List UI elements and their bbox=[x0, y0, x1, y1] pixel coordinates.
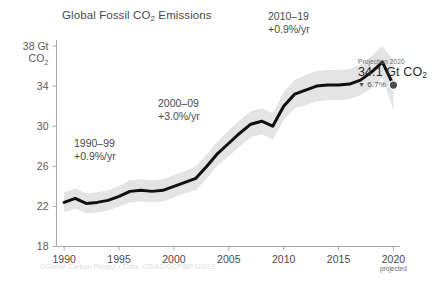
x-tick-label-2020: 2020 bbox=[382, 253, 406, 265]
projection-value: 34.1 Gt CO2 bbox=[358, 65, 427, 79]
y-tick-label-34: 34 bbox=[37, 80, 49, 92]
annotation-2000-line1: 2000–09 bbox=[158, 97, 200, 110]
projection-value-subscript: 2 bbox=[422, 70, 427, 80]
down-arrow-icon: ▼ bbox=[358, 81, 365, 88]
projection-label: Projection 2020 bbox=[358, 58, 427, 65]
y-axis-unit-label: CO2 bbox=[29, 52, 49, 67]
uncertainty-band bbox=[64, 46, 393, 213]
y-tick-label-18: 18 bbox=[37, 240, 49, 252]
x-tick-marks bbox=[64, 247, 393, 251]
y-tick-label-22: 22 bbox=[37, 200, 49, 212]
annotation-period-2010-2019: 2010–19 +0.9%/yr bbox=[268, 10, 310, 36]
projection-value-text: 34.1 Gt CO bbox=[358, 65, 422, 79]
x-tick-label-2015: 2015 bbox=[327, 253, 351, 265]
projection-delta-value: 6.7% bbox=[367, 80, 386, 89]
y-tick-marks bbox=[53, 46, 57, 246]
y-axis-unit-subscript: 2 bbox=[44, 58, 48, 67]
y-axis: 38 Gt3430262218CO2 bbox=[23, 40, 57, 252]
annotation-period-1990-1999: 1990–99 +0.9%/yr bbox=[74, 137, 116, 163]
x-tick-label-2010: 2010 bbox=[272, 253, 296, 265]
annotation-period-2000-2009: 2000–09 +3.0%/yr bbox=[158, 97, 200, 123]
y-tick-label-30: 30 bbox=[37, 120, 49, 132]
annotation-1990-line1: 1990–99 bbox=[74, 137, 116, 150]
projection-delta: ▼ 6.7% bbox=[358, 80, 427, 89]
chart-figure: Global Fossil CO2 Emissions 38 Gt3430262… bbox=[0, 0, 432, 292]
credit-line: ©Global Carbon Project • Data: CDIAC/GCP… bbox=[40, 263, 216, 270]
x-tick-sublabel-2020: projected bbox=[380, 265, 407, 273]
x-tick-label-2005: 2005 bbox=[217, 253, 241, 265]
y-tick-label-38: 38 Gt bbox=[23, 40, 49, 52]
annotation-2000-line2: +3.0%/yr bbox=[158, 110, 200, 123]
projection-callout: Projection 2020 34.1 Gt CO2 ▼ 6.7% bbox=[358, 58, 427, 89]
annotation-2010-line2: +0.9%/yr bbox=[268, 23, 310, 36]
annotation-2010-line1: 2010–19 bbox=[268, 10, 310, 23]
y-tick-labels: 38 Gt3430262218CO2 bbox=[23, 40, 49, 252]
y-tick-label-26: 26 bbox=[37, 160, 49, 172]
annotation-1990-line2: +0.9%/yr bbox=[74, 150, 116, 163]
chart-plot-area: 38 Gt3430262218CO2 199019952000200520102… bbox=[0, 0, 432, 292]
